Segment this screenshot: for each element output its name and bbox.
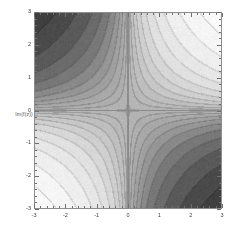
axis-tick-mark (97, 204, 98, 208)
axis-tick-mark (166, 13, 167, 15)
axis-tick-mark (219, 58, 221, 59)
axis-tick-mark (191, 13, 192, 17)
axis-tick-mark (219, 104, 221, 105)
x-tick-label: -2 (58, 213, 72, 219)
axis-tick-mark (172, 206, 173, 208)
axis-tick-mark (219, 150, 221, 151)
axis-tick-mark (35, 117, 37, 118)
axis-tick-mark (153, 13, 154, 15)
y-tick-label: -2 (19, 173, 31, 179)
axis-tick-mark (216, 206, 217, 208)
axis-tick-mark (35, 183, 37, 184)
x-tick-label: 3 (215, 213, 229, 219)
axis-tick-mark (219, 189, 221, 190)
y-tick-label: 3 (19, 9, 31, 15)
axis-tick-mark (35, 111, 39, 112)
axis-tick-mark (219, 19, 221, 20)
axis-tick-mark (35, 12, 39, 13)
axis-tick-mark (166, 206, 167, 208)
axis-tick-mark (35, 137, 37, 138)
density-contour-canvas (35, 13, 221, 208)
axis-tick-mark (35, 170, 37, 171)
axis-tick-mark (219, 97, 221, 98)
axis-tick-mark (47, 13, 48, 15)
axis-tick-mark (53, 206, 54, 208)
axis-tick-mark (72, 206, 73, 208)
y-tick-label: 1 (19, 75, 31, 81)
axis-tick-mark (219, 117, 221, 118)
axis-tick-mark (184, 13, 185, 15)
x-tick-label: 1 (152, 213, 166, 219)
axis-tick-mark (109, 13, 110, 15)
y-tick-label: -1 (19, 140, 31, 146)
axis-tick-mark (219, 25, 221, 26)
axis-tick-mark (122, 206, 123, 208)
axis-tick-mark (217, 12, 221, 13)
plot-frame (34, 12, 222, 209)
axis-tick-mark (84, 13, 85, 15)
axis-tick-mark (84, 206, 85, 208)
axis-tick-mark (35, 51, 37, 52)
axis-tick-mark (103, 206, 104, 208)
axis-tick-mark (159, 204, 160, 208)
axis-tick-mark (122, 13, 123, 15)
x-tick-label: -3 (27, 213, 41, 219)
axis-tick-mark (219, 130, 221, 131)
axis-tick-mark (219, 71, 221, 72)
y-tick-label: 2 (19, 42, 31, 48)
axis-tick-mark (219, 156, 221, 157)
axis-tick-mark (219, 38, 221, 39)
axis-tick-mark (203, 206, 204, 208)
axis-tick-mark (147, 206, 148, 208)
axis-tick-mark (134, 13, 135, 15)
axis-tick-mark (35, 176, 39, 177)
axis-tick-mark (147, 13, 148, 15)
axis-tick-mark (35, 196, 37, 197)
axis-tick-mark (217, 143, 221, 144)
axis-tick-mark (59, 206, 60, 208)
axis-tick-mark (172, 13, 173, 15)
axis-tick-mark (35, 45, 39, 46)
axis-tick-mark (128, 204, 129, 208)
axis-tick-mark (35, 143, 39, 144)
axis-tick-mark (35, 91, 37, 92)
axis-tick-mark (141, 13, 142, 15)
axis-tick-mark (34, 13, 35, 17)
axis-tick-mark (141, 206, 142, 208)
axis-tick-mark (216, 13, 217, 15)
axis-tick-mark (209, 206, 210, 208)
axis-tick-mark (115, 13, 116, 15)
axis-tick-mark (40, 13, 41, 15)
axis-tick-mark (78, 13, 79, 15)
axis-tick-mark (35, 38, 37, 39)
axis-tick-mark (222, 204, 223, 208)
axis-tick-mark (219, 163, 221, 164)
axis-tick-mark (109, 206, 110, 208)
y-tick-label: -3 (19, 206, 31, 212)
axis-tick-mark (197, 13, 198, 15)
axis-tick-mark (72, 13, 73, 15)
axis-tick-mark (59, 13, 60, 15)
axis-tick-mark (217, 78, 221, 79)
axis-tick-mark (40, 206, 41, 208)
axis-tick-mark (217, 176, 221, 177)
axis-tick-mark (184, 206, 185, 208)
axis-tick-mark (222, 13, 223, 17)
axis-tick-mark (35, 163, 37, 164)
y-tick-label: 0 (19, 108, 31, 114)
axis-tick-mark (219, 51, 221, 52)
axis-tick-mark (35, 84, 37, 85)
axis-tick-mark (90, 13, 91, 15)
axis-tick-mark (35, 78, 39, 79)
axis-tick-mark (219, 65, 221, 66)
axis-tick-mark (53, 13, 54, 15)
axis-tick-mark (90, 206, 91, 208)
axis-tick-mark (65, 13, 66, 17)
axis-tick-mark (35, 156, 37, 157)
axis-tick-mark (34, 204, 35, 208)
axis-tick-mark (219, 170, 221, 171)
axis-tick-mark (209, 13, 210, 15)
axis-tick-mark (47, 206, 48, 208)
axis-tick-mark (219, 202, 221, 203)
axis-tick-mark (103, 13, 104, 15)
